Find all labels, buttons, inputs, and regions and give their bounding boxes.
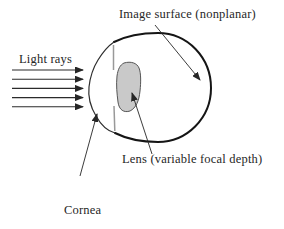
cornea-label-line1: Cornea [64,203,159,217]
iris-line-bottom [114,106,115,131]
light-rays-label: Light rays [19,52,72,66]
cornea-pointer-arrow [80,114,97,176]
image-surface-label: Image surface (nonplanar) [119,7,256,21]
eyeball-body [89,33,211,142]
cornea-label: Cornea (powerful lens but fixed focal de… [64,175,159,229]
light-ray-arrows [12,70,83,107]
lens-shape [117,62,141,111]
eye-optics-diagram: Image surface (nonplanar) Light rays Len… [0,0,284,229]
lens-label: Lens (variable focal depth) [122,152,262,166]
